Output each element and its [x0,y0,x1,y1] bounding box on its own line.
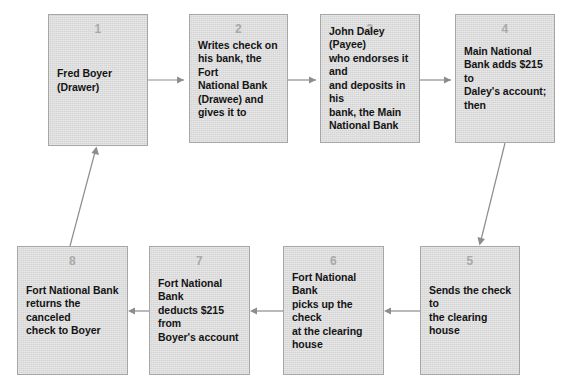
flow-node-1-number: 1 [49,22,147,36]
flow-node-3[interactable]: 3 John Daley (Payee) who endorses it and… [320,14,420,143]
arrow-4-to-5 [481,143,505,240]
flow-node-8-text: Fort National Bank returns the canceled … [26,284,121,338]
flow-node-5-text: Sends the check to the clearing house [429,284,513,338]
arrow-3-to-4-head [444,77,451,84]
flow-node-8-number: 8 [18,254,127,268]
flow-node-1-text: Fred Boyer (Drawer) [57,67,141,94]
flow-node-6-text: Fort National Bank picks up the check at… [292,270,377,351]
flow-node-5[interactable]: 5 Sends the check to the clearing house [420,246,520,375]
flow-node-4-text: Main National Bank adds $215 to Daley's … [464,45,548,113]
flow-node-7-number: 7 [150,254,249,268]
flow-node-2-number: 2 [190,22,287,36]
flow-node-1[interactable]: 1 Fred Boyer (Drawer) [48,14,148,146]
arrow-4-to-5-head [478,237,486,246]
flow-node-4-number: 4 [456,22,554,36]
flow-node-7-text: Fort National Bank deducts $215 from Boy… [158,277,243,345]
flow-node-8[interactable]: 8 Fort National Bank returns the cancele… [17,246,128,375]
figure-caption [0,384,566,392]
flow-node-7[interactable]: 7 Fort National Bank deducts $215 from B… [149,246,250,375]
arrow-8-to-1-head [92,147,100,156]
flow-node-5-number: 5 [421,254,519,268]
arrow-2-to-3-head [309,77,316,84]
flowchart-canvas: 1 Fred Boyer (Drawer) 2 Writes check on … [0,0,566,392]
arrow-5-to-6-head [384,308,391,315]
flow-node-2-text: Writes check on his bank, the Fort Natio… [198,38,281,119]
arrow-8-to-1 [70,152,95,246]
arrow-6-to-7-head [250,308,257,315]
flow-node-4[interactable]: 4 Main National Bank adds $215 to Daley'… [455,14,555,143]
flow-node-3-text: John Daley (Payee) who endorses it and a… [329,25,413,133]
flow-node-6-number: 6 [284,254,383,268]
arrow-1-to-2-head [177,77,184,84]
flow-node-2[interactable]: 2 Writes check on his bank, the Fort Nat… [189,14,288,143]
arrow-7-to-8-head [128,308,135,315]
flow-node-6[interactable]: 6 Fort National Bank picks up the check … [283,246,384,375]
